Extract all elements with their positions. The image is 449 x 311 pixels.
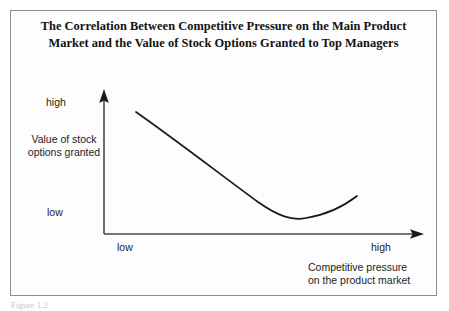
y-axis-high-label: high [46,96,66,109]
x-axis-title: Competitive pressure on the product mark… [308,261,436,286]
data-curve-path [136,112,357,219]
x-axis-title-line-1: Competitive pressure [308,261,436,274]
x-axis-title-line-2: on the product market [308,274,436,287]
y-axis-title-line-2: options granted [18,146,110,159]
figure-caption: Figure 1.2 [11,300,48,310]
x-axis-high-label: high [371,241,391,254]
y-axis-title: Value of stock options granted [18,133,110,158]
y-axis-low-label: low [47,206,63,219]
x-axis-low-label: low [117,241,133,254]
y-axis-title-line-1: Value of stock [18,133,110,146]
figure-page: The Correlation Between Competitive Pres… [0,0,449,311]
